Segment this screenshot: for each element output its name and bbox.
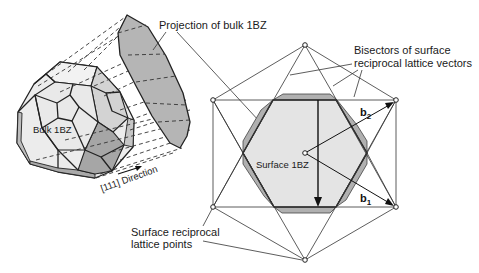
lattice-point-top	[303, 43, 308, 48]
lattice-point-center	[303, 151, 308, 156]
brillouin-zone-diagram: Bulk 1BZ [111] Direction Projection of	[0, 0, 479, 273]
lattice-points-leader-1	[203, 209, 212, 226]
bisectors-label-line1: Bisectors of surface	[354, 44, 451, 56]
b1-arrowhead-icon	[385, 198, 394, 206]
lattice-point-upper-right	[394, 98, 399, 103]
bisector-leader-2	[333, 70, 358, 86]
surface-lattice: Surface 1BZ b1 b2	[211, 43, 399, 263]
b1-label: b1	[360, 192, 372, 207]
lattice-point-lower-left	[211, 205, 216, 210]
lattice-points-leader-2	[203, 241, 302, 260]
projection-label: Projection of bulk 1BZ	[159, 19, 267, 31]
lattice-points-label-line2: lattice points	[131, 238, 193, 250]
bisector-leader-3	[354, 70, 362, 97]
projection-leader-2	[177, 32, 260, 122]
bisectors-label-line2: reciprocal lattice vectors	[354, 57, 472, 69]
b2-label: b2	[360, 106, 372, 121]
surface-bz-label: Surface 1BZ	[256, 159, 309, 170]
lattice-point-lower-right	[394, 205, 399, 210]
bulk-bz-label: Bulk 1BZ	[33, 124, 72, 135]
lattice-points-label-line1: Surface reciprocal	[131, 226, 220, 238]
lattice-point-upper-left	[211, 98, 216, 103]
bulk-bz-polyhedron: Bulk 1BZ	[17, 62, 134, 178]
lattice-point-bottom	[303, 258, 308, 263]
